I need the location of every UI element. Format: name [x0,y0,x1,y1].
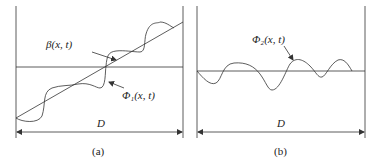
phi1-curve [16,22,174,122]
phi1-annotation-arrow [109,82,124,88]
beta-ramp-line [16,22,183,118]
phi2-annotation-arrow [284,46,293,60]
beta-annotation-arrow [92,52,116,60]
phi2-curve [197,60,352,90]
panel-b-width-label: D [276,117,285,129]
beta-label: β(x, t) [45,38,73,51]
diagram-canvas: β(x, t) Φ₁(x, t) D (a) Φ₂(x, t) D (b) [0,0,375,166]
panel-b-caption: (b) [274,145,287,158]
panel-a-caption: (a) [92,145,105,158]
phi1-label: Φ₁(x, t) [122,89,155,102]
phi2-label: Φ₂(x, t) [252,33,285,46]
panel-a-width-label: D [96,117,105,129]
